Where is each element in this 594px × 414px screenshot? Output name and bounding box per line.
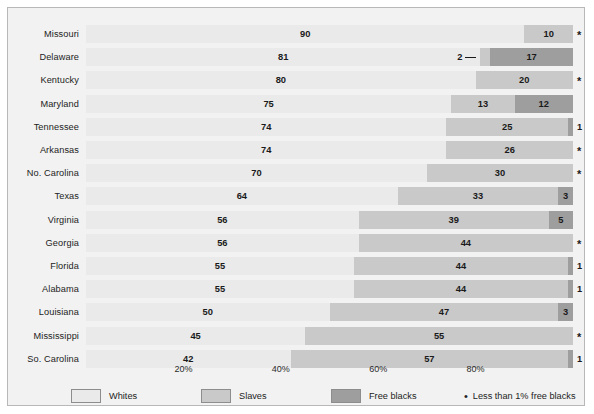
segment-label-slaves: 47: [330, 303, 559, 321]
chart-row: Arkansas7426*: [16, 141, 578, 159]
segment-label-whites: 45: [86, 327, 305, 345]
chart-row: Delaware81217: [16, 48, 578, 66]
x-tick-label: 80%: [467, 364, 485, 374]
segment-label-whites: 55: [86, 257, 354, 275]
row-end-value: 1: [577, 280, 582, 298]
segment-label-free-blacks: 17: [490, 48, 573, 66]
chart-row: Georgia5644*: [16, 234, 578, 252]
stacked-bar: 56395: [86, 211, 573, 229]
segment-label-whites: 50: [86, 303, 330, 321]
row-state-label: So. Carolina: [16, 350, 79, 368]
segment-label-slaves: 39: [359, 211, 549, 229]
segment-label-whites: 64: [86, 187, 398, 205]
chart-legend: WhitesSlavesFree blacks•Less than 1% fre…: [16, 386, 578, 410]
segment-label-slaves: 55: [305, 327, 573, 345]
stacked-bar: 7425: [86, 118, 573, 136]
chart-row: Mississippi4555*: [16, 327, 578, 345]
row-state-label: Georgia: [16, 234, 79, 252]
less-than-one-percent-marker: *: [577, 234, 581, 252]
row-state-label: No. Carolina: [16, 164, 79, 182]
segment-label-slaves: 44: [359, 234, 573, 252]
segment-label-whites: 81: [86, 48, 480, 66]
row-state-label: Maryland: [16, 95, 79, 113]
legend-swatch-icon: [71, 389, 101, 403]
chart-row: Alabama55441: [16, 280, 578, 298]
stacked-bar: 50473: [86, 303, 573, 321]
chart-plate: Missouri9010*Delaware81217Kentucky8020*M…: [7, 7, 585, 406]
segment-label-free-blacks: 3: [558, 303, 573, 321]
stacked-bar: 7426: [86, 141, 573, 159]
segment-label-whites: 56: [86, 211, 359, 229]
segment-label-slaves: 26: [446, 141, 573, 159]
segment-label-slaves: 44: [354, 280, 568, 298]
chart-row: Tennessee74251: [16, 118, 578, 136]
row-end-value: 1: [577, 118, 582, 136]
segment-label-free-blacks: 3: [558, 187, 573, 205]
segment-label-slaves: 25: [446, 118, 568, 136]
row-state-label: Arkansas: [16, 141, 79, 159]
legend-footnote: •Less than 1% free blacks: [464, 386, 576, 406]
chart-row: Maryland751312: [16, 95, 578, 113]
segment-label-whites: 56: [86, 234, 359, 252]
stacked-bar: 9010: [86, 25, 573, 43]
segment-label-whites: 74: [86, 118, 446, 136]
stacked-bar: 7030: [86, 164, 573, 182]
row-state-label: Alabama: [16, 280, 79, 298]
stacked-bar: 5544: [86, 257, 573, 275]
chart-row: No. Carolina7030*: [16, 164, 578, 182]
less-than-one-percent-marker: *: [577, 25, 581, 43]
row-state-label: Tennessee: [16, 118, 79, 136]
legend-label: Whites: [109, 391, 137, 401]
stacked-bar: 81217: [86, 48, 573, 66]
chart-row: Missouri9010*: [16, 25, 578, 43]
chart-row: Florida55441: [16, 257, 578, 275]
plot-area: Missouri9010*Delaware81217Kentucky8020*M…: [16, 14, 578, 364]
leader-line: [465, 57, 476, 58]
row-state-label: Louisiana: [16, 303, 79, 321]
chart-root: Missouri9010*Delaware81217Kentucky8020*M…: [0, 0, 594, 414]
legend-footnote-label: Less than 1% free blacks: [473, 391, 576, 401]
row-state-label: Delaware: [16, 48, 79, 66]
segment-slaves: [480, 48, 490, 66]
segment-label-slaves: 30: [427, 164, 573, 182]
segment-label-slaves: 2: [440, 48, 462, 66]
segment-free-blacks: [568, 257, 573, 275]
segment-free-blacks: [568, 280, 573, 298]
segment-label-whites: 90: [86, 25, 524, 43]
legend-item-whites[interactable]: Whites: [71, 386, 137, 406]
stacked-bar: 5544: [86, 280, 573, 298]
segment-label-free-blacks: 5: [549, 211, 573, 229]
row-state-label: Missouri: [16, 25, 79, 43]
less-than-one-percent-marker: *: [577, 71, 581, 89]
chart-row: Texas64333: [16, 187, 578, 205]
legend-item-free-blacks[interactable]: Free blacks: [331, 386, 417, 406]
less-than-one-percent-marker: *: [577, 141, 581, 159]
segment-label-slaves: 13: [451, 95, 514, 113]
less-than-one-percent-marker: *: [577, 327, 581, 345]
segment-label-slaves: 10: [524, 25, 573, 43]
less-than-one-percent-marker: *: [577, 164, 581, 182]
row-end-value: 1: [577, 257, 582, 275]
stacked-bar: 64333: [86, 187, 573, 205]
x-tick-label: 20%: [174, 364, 192, 374]
stacked-bar: 4555: [86, 327, 573, 345]
row-state-label: Virginia: [16, 211, 79, 229]
x-tick-label: 60%: [369, 364, 387, 374]
chart-row: Louisiana50473: [16, 303, 578, 321]
legend-label: Free blacks: [369, 391, 417, 401]
chart-row: Virginia56395: [16, 211, 578, 229]
row-state-label: Mississippi: [16, 327, 79, 345]
x-tick-label: 40%: [272, 364, 290, 374]
legend-swatch-icon: [201, 389, 231, 403]
segment-label-whites: 75: [86, 95, 451, 113]
segment-label-whites: 70: [86, 164, 427, 182]
legend-item-slaves[interactable]: Slaves: [201, 386, 267, 406]
segment-label-whites: 74: [86, 141, 446, 159]
stacked-bar: 751312: [86, 95, 573, 113]
row-state-label: Florida: [16, 257, 79, 275]
segment-free-blacks: [568, 118, 573, 136]
segment-label-whites: 55: [86, 280, 354, 298]
segment-label-slaves: 33: [398, 187, 559, 205]
x-axis: 20%40%60%80%: [86, 364, 573, 380]
legend-swatch-icon: [331, 389, 361, 403]
